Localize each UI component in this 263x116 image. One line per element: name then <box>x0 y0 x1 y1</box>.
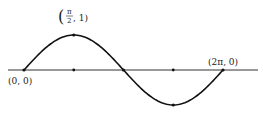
peak-label-rest: , 1) <box>73 13 88 23</box>
data-point <box>122 68 125 71</box>
peak-label: ( π 2 , 1) <box>58 7 88 26</box>
end-label: (2π, 0) <box>208 57 238 67</box>
data-point <box>22 68 25 71</box>
peak-label-numerator: π <box>67 8 72 16</box>
peak-label-paren: ( <box>58 7 64 26</box>
axis-tick-point <box>172 69 175 72</box>
data-point <box>172 103 175 106</box>
data-point <box>72 33 75 36</box>
peak-label-denominator: 2 <box>67 17 71 25</box>
sine-chart: (0, 0) (2π, 0) ( π 2 , 1) <box>0 0 263 116</box>
data-point <box>221 68 224 71</box>
origin-label: (0, 0) <box>8 76 32 86</box>
axis-tick-point <box>72 69 75 72</box>
